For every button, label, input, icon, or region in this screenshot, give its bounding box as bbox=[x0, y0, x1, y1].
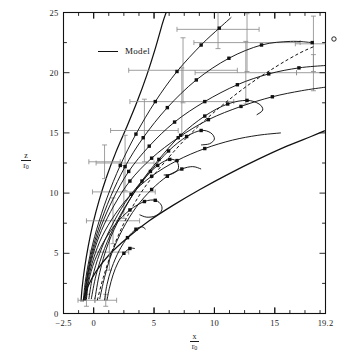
data-point-marker bbox=[179, 134, 182, 137]
trajectory-curve bbox=[85, 87, 325, 300]
data-point-marker bbox=[129, 193, 132, 196]
data-point-marker bbox=[203, 147, 206, 150]
legend-model-label: Model bbox=[125, 46, 150, 56]
data-point-marker bbox=[180, 167, 183, 170]
data-point-marker bbox=[267, 72, 270, 75]
data-point-marker bbox=[128, 247, 131, 250]
data-point-marker bbox=[134, 228, 137, 231]
data-point-marker bbox=[128, 179, 131, 182]
data-point-marker bbox=[123, 165, 126, 168]
x-tick-label: 10 bbox=[194, 318, 234, 328]
envelope-curve bbox=[83, 130, 326, 301]
data-point-marker bbox=[218, 26, 221, 29]
legend-model-line-swatch bbox=[98, 51, 118, 52]
data-point-marker bbox=[154, 199, 157, 202]
data-point-marker bbox=[122, 252, 125, 255]
data-point-marker bbox=[239, 105, 242, 108]
x-tick-label: 0 bbox=[74, 318, 114, 328]
data-point-marker bbox=[260, 43, 263, 46]
data-point-marker bbox=[245, 99, 248, 102]
legend: Model bbox=[98, 46, 150, 56]
data-point-marker bbox=[150, 156, 153, 159]
data-point-marker bbox=[134, 132, 137, 135]
y-tick-label: 5 bbox=[26, 248, 59, 258]
y-tick-label: 0 bbox=[26, 309, 59, 319]
data-point-marker bbox=[119, 164, 122, 167]
trajectory-curve-dashed bbox=[97, 46, 314, 300]
y-tick-label: 10 bbox=[26, 188, 59, 198]
data-point-marker bbox=[185, 135, 188, 138]
x-tick-label: 15 bbox=[255, 318, 295, 328]
data-point-marker bbox=[236, 83, 239, 86]
data-point-marker bbox=[207, 118, 210, 121]
y-axis-title-numerator: z bbox=[21, 151, 31, 161]
x-axis-title-denominator: r0 bbox=[190, 342, 200, 352]
data-point-marker bbox=[175, 70, 178, 73]
y-tick-label: 15 bbox=[26, 128, 59, 138]
y-tick-label: 20 bbox=[26, 68, 59, 78]
data-point-marker bbox=[195, 78, 198, 81]
data-point-marker bbox=[127, 170, 130, 173]
data-point-marker bbox=[226, 102, 229, 105]
x-tick-label: 19.2 bbox=[306, 318, 344, 328]
trajectory-curves-group bbox=[83, 17, 325, 300]
data-point-marker bbox=[166, 106, 169, 109]
figure-root: Model x r0 z r0 −2.505101519.2 051015202… bbox=[0, 0, 344, 359]
data-point-marker bbox=[199, 129, 202, 132]
y-axis-title: z r0 bbox=[13, 151, 39, 171]
data-point-marker bbox=[227, 57, 230, 60]
open-circle-marker bbox=[332, 37, 336, 41]
x-axis-title-numerator: x bbox=[190, 332, 200, 342]
data-point-marker bbox=[297, 66, 300, 69]
data-point-marker bbox=[148, 144, 151, 147]
data-point-markers-group bbox=[119, 26, 314, 255]
data-point-marker bbox=[203, 114, 206, 117]
data-point-marker bbox=[271, 95, 274, 98]
data-point-marker bbox=[154, 100, 157, 103]
data-point-marker bbox=[128, 208, 131, 211]
data-point-marker bbox=[157, 158, 160, 161]
data-point-marker bbox=[167, 149, 170, 152]
trajectory-curve bbox=[86, 133, 281, 300]
data-point-marker bbox=[173, 120, 176, 123]
data-point-marker bbox=[143, 200, 146, 203]
data-point-marker bbox=[199, 43, 202, 46]
outside-markers-group bbox=[332, 37, 336, 41]
x-tick-label: 5 bbox=[134, 318, 174, 328]
data-point-marker bbox=[166, 175, 169, 178]
data-point-marker bbox=[150, 175, 153, 178]
data-point-marker bbox=[141, 136, 144, 139]
y-axis-title-denominator: r0 bbox=[21, 161, 31, 171]
x-axis-title: x r0 bbox=[175, 332, 215, 352]
data-point-marker bbox=[311, 41, 314, 44]
plot-canvas bbox=[0, 0, 344, 359]
data-point-marker bbox=[175, 159, 178, 162]
data-point-marker bbox=[149, 170, 152, 173]
data-point-marker bbox=[126, 236, 129, 239]
data-point-marker bbox=[140, 179, 143, 182]
data-point-marker bbox=[150, 188, 153, 191]
data-point-marker bbox=[168, 158, 171, 161]
y-tick-label: 25 bbox=[26, 8, 59, 18]
data-point-marker bbox=[156, 164, 159, 167]
data-point-marker bbox=[203, 100, 206, 103]
